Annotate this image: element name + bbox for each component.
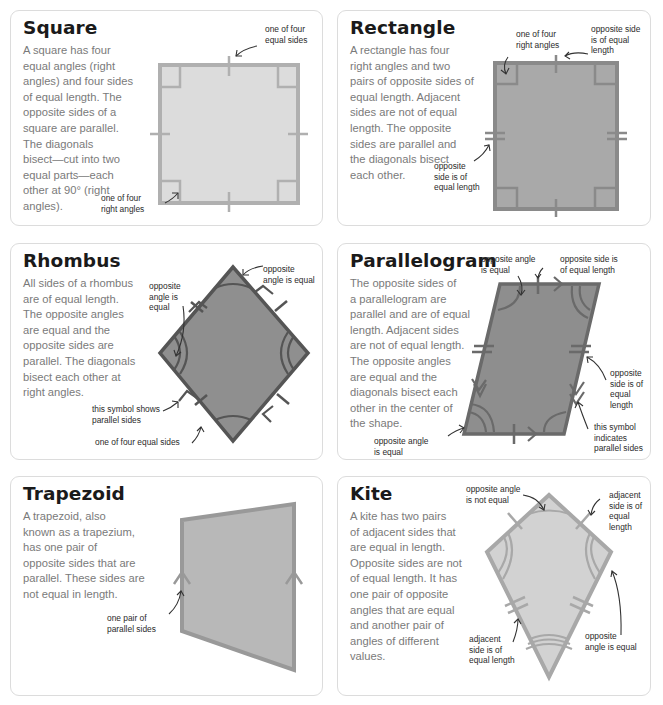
card-kite: Kite A kite has two pairs of adjacent si… xyxy=(337,476,651,696)
annotation-line: side is of xyxy=(434,172,480,183)
annotation-line: right angles xyxy=(101,204,144,215)
annotation-line: opposite angle xyxy=(481,254,535,265)
annotation-line: angle is equal xyxy=(585,642,637,653)
annotation-line: one pair of xyxy=(107,613,156,624)
annotation-line: opposite xyxy=(610,368,643,379)
annotation-line: opposite angle xyxy=(374,436,428,447)
rhombus-annotation-parallel: this symbol shows parallel sides xyxy=(92,404,160,425)
rectangle-annotation-left-side: opposite side is of equal length xyxy=(434,161,480,193)
annotation-line: side is of xyxy=(469,645,515,656)
kite-annotation-left-side: adjacent side is of equal length xyxy=(469,634,515,666)
annotation-line: adjacent xyxy=(469,634,515,645)
annotation-line: one of four xyxy=(516,29,559,40)
parallelogram-annotation-bottom-angle: opposite angle is equal xyxy=(374,436,428,457)
annotation-line: equal length xyxy=(434,182,480,193)
annotation-line: one of four equal sides xyxy=(95,437,180,448)
annotation-line: adjacent xyxy=(609,490,642,501)
rectangle-annotation-angles: one of four right angles xyxy=(516,29,559,50)
annotation-line: parallel sides xyxy=(107,624,156,635)
annotation-line: opposite xyxy=(149,281,181,292)
annotation-line: opposite angle xyxy=(466,484,520,495)
annotation-line: right angles xyxy=(516,40,559,51)
kite-annotation-top-angle: opposite angle is not equal xyxy=(466,484,520,505)
parallelogram-annotation-right-side: opposite side is of equal length xyxy=(610,368,643,410)
annotation-line: angle is xyxy=(149,292,181,303)
annotation-line: length xyxy=(610,400,643,411)
annotation-line: angle is equal xyxy=(263,275,315,286)
annotation-line: of equal length xyxy=(560,265,618,276)
rectangle-annotation-top-side: opposite side is of equal length xyxy=(591,24,640,56)
rhombus-annotation-top-angle: opposite angle is equal xyxy=(263,264,315,285)
annotation-line: length xyxy=(591,45,640,56)
rhombus-annotation-sides: one of four equal sides xyxy=(95,437,180,448)
annotation-line: equal xyxy=(609,511,642,522)
annotation-line: opposite side xyxy=(591,24,640,35)
card-trapezoid: Trapezoid A trapezoid, also known as a t… xyxy=(10,476,323,696)
card-rectangle: Rectangle A rectangle has four right ang… xyxy=(337,10,651,226)
annotation-line: equal xyxy=(149,302,181,313)
annotation-line: is equal xyxy=(481,265,535,276)
card-rhombus: Rhombus All sides of a rhombus are of eq… xyxy=(10,243,323,460)
annotation-line: is not equal xyxy=(466,495,520,506)
annotation-line: equal length xyxy=(469,655,515,666)
parallelogram-annotation-symbol: this symbol indicates parallel sides xyxy=(594,422,643,454)
annotation-line: side is of xyxy=(609,501,642,512)
rhombus-annotation-left-angle: opposite angle is equal xyxy=(149,281,181,313)
annotation-line: equal sides xyxy=(265,35,307,46)
annotation-line: parallel sides xyxy=(594,443,643,454)
annotation-line: opposite side is xyxy=(560,254,618,265)
annotation-line: side is of xyxy=(610,379,643,390)
annotation-line: is equal xyxy=(374,447,428,458)
annotation-line: this symbol shows xyxy=(92,404,160,415)
annotation-line: one of four xyxy=(265,24,307,35)
parallelogram-annotation-top-angle: opposite angle is equal xyxy=(481,254,535,275)
annotation-line: this symbol xyxy=(594,422,643,433)
parallelogram-annotation-top-side: opposite side is of equal length xyxy=(560,254,618,275)
trapezoid-annotation-parallel: one pair of parallel sides xyxy=(107,613,156,634)
card-square: Square A square has four equal angles (r… xyxy=(10,10,323,226)
annotation-line: one of four xyxy=(101,193,144,204)
annotation-line: indicates xyxy=(594,433,643,444)
annotation-line: opposite xyxy=(585,631,637,642)
annotation-line: equal xyxy=(610,389,643,400)
square-annotation-sides: one of four equal sides xyxy=(265,24,307,45)
card-parallelogram: Parallelogram The opposite sides of a pa… xyxy=(337,243,651,460)
annotation-line: is of equal xyxy=(591,35,640,46)
annotation-line: opposite xyxy=(263,264,315,275)
square-annotation-angles: one of four right angles xyxy=(101,193,144,214)
annotation-line: parallel sides xyxy=(92,415,160,426)
kite-annotation-right-top-side: adjacent side is of equal length xyxy=(609,490,642,532)
trapezoid-diagram xyxy=(11,477,323,696)
kite-annotation-right-angle: opposite angle is equal xyxy=(585,631,637,652)
annotation-line: length xyxy=(609,522,642,533)
annotation-line: opposite xyxy=(434,161,480,172)
